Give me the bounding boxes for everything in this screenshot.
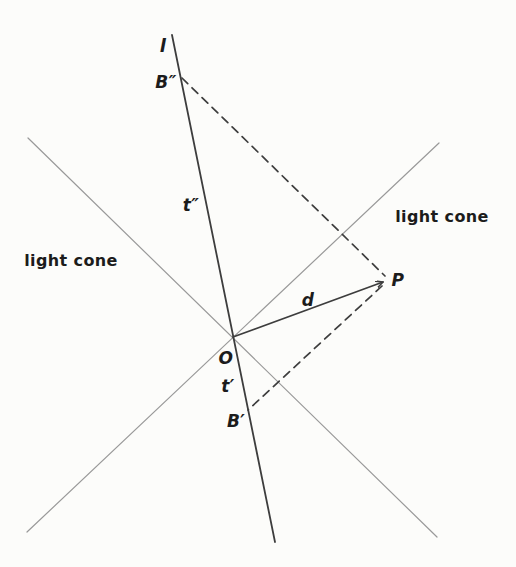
light-cone-right-label: light cone [395, 207, 489, 226]
point-O-label: O [219, 348, 234, 368]
segment-t2-label: t″ [183, 195, 200, 215]
point-P-label: P [392, 270, 405, 290]
point-B2-label: B″ [155, 72, 176, 92]
light-cone-left-label: light cone [24, 251, 118, 270]
segment-d-label: d [302, 290, 315, 310]
paper-background [0, 0, 516, 567]
point-B1-label: B′ [227, 411, 245, 431]
diagram-canvas: lB″t″light conelight conedPOt′B′ [0, 0, 516, 567]
spacetime-diagram: lB″t″light conelight conedPOt′B′ [0, 0, 516, 567]
segment-t1-label: t′ [221, 376, 235, 396]
worldline-l-label: l [160, 35, 167, 56]
